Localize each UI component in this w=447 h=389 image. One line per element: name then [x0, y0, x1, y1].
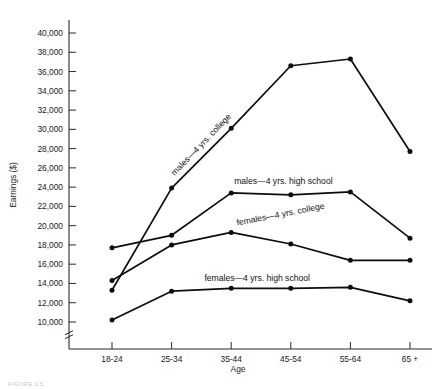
x-tick-label: 45-54 [280, 354, 302, 364]
data-series-layer [110, 57, 413, 323]
series-3 [110, 285, 413, 323]
data-point [408, 258, 413, 263]
data-point [348, 285, 353, 290]
y-tick-label: 38,000 [37, 47, 63, 57]
series-label-0: males—4 yrs. college [169, 111, 233, 177]
x-tick-label: 55-64 [340, 354, 362, 364]
data-point [229, 190, 234, 195]
y-tick-label: 22,000 [37, 201, 63, 211]
data-point [110, 245, 115, 250]
data-point [348, 258, 353, 263]
y-tick-label: 14,000 [37, 278, 63, 288]
y-tick-label: 32,000 [37, 105, 63, 115]
data-point [169, 233, 174, 238]
series-label-3: females—4 yrs. high school [204, 273, 310, 283]
y-tick-label: 10,000 [37, 317, 63, 327]
x-tick-label: 18-24 [101, 354, 123, 364]
series-inline-labels: males—4 yrs. collegemales—4 yrs. high sc… [169, 111, 333, 282]
series-0 [110, 57, 413, 293]
y-tick-label: 18,000 [37, 240, 63, 250]
data-point [288, 241, 293, 246]
y-tick-label: 40,000 [37, 28, 63, 38]
x-axis-title: Age [231, 364, 246, 374]
y-axis-title: Earnings ($) [8, 162, 18, 208]
data-point [110, 318, 115, 323]
x-axis-ticks: 18-2425-3435-4445-5455-6465 + [101, 342, 418, 364]
y-tick-label: 30,000 [37, 124, 63, 134]
data-point [169, 289, 174, 294]
y-tick-label: 34,000 [37, 86, 63, 96]
data-point [288, 286, 293, 291]
series-label-1: males—4 yrs. high school [234, 176, 332, 186]
series-label-2: females—4 yrs. college [236, 201, 326, 228]
y-tick-label: 20,000 [37, 221, 63, 231]
earnings-by-age-line-chart: 10,00012,00014,00016,00018,00020,00022,0… [0, 0, 447, 389]
data-point [169, 186, 174, 191]
data-point [229, 286, 234, 291]
data-point [408, 149, 413, 154]
data-point [288, 192, 293, 197]
y-tick-label: 12,000 [37, 298, 63, 308]
x-tick-label: 25-34 [161, 354, 183, 364]
data-point [229, 230, 234, 235]
y-tick-label: 26,000 [37, 163, 63, 173]
x-tick-label: 35-44 [220, 354, 242, 364]
data-point [408, 236, 413, 241]
data-point [110, 278, 115, 283]
data-point [348, 57, 353, 62]
chart-canvas: 10,00012,00014,00016,00018,00020,00022,0… [0, 0, 447, 389]
y-tick-label: 36,000 [37, 67, 63, 77]
data-point [408, 298, 413, 303]
y-tick-label: 16,000 [37, 259, 63, 269]
data-point [288, 63, 293, 68]
y-tick-label: 24,000 [37, 182, 63, 192]
y-tick-label: 28,000 [37, 144, 63, 154]
x-tick-label: 65 + [402, 354, 419, 364]
data-point [229, 126, 234, 131]
data-point [110, 288, 115, 293]
data-point [348, 189, 353, 194]
y-axis-ticks: 10,00012,00014,00016,00018,00020,00022,0… [37, 28, 76, 327]
figure-caption: FIGURE 3.5 [8, 381, 44, 387]
data-point [169, 242, 174, 247]
